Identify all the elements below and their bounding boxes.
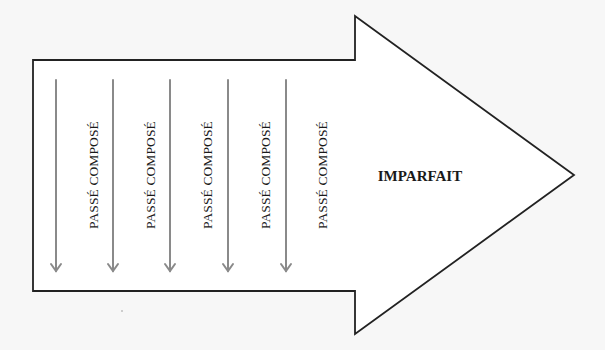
imparfait-block-arrow — [33, 16, 574, 334]
column-label-5: PASSÉ COMPOSÉ — [314, 100, 332, 250]
column-label-3: PASSÉ COMPOSÉ — [199, 100, 217, 250]
column-label-1: PASSÉ COMPOSÉ — [85, 100, 103, 250]
column-label-4: PASSÉ COMPOSÉ — [257, 100, 275, 250]
column-label-2: PASSÉ COMPOSÉ — [142, 100, 160, 250]
stray-dot — [121, 310, 123, 312]
imparfait-label: IMPARFAIT — [362, 166, 478, 186]
